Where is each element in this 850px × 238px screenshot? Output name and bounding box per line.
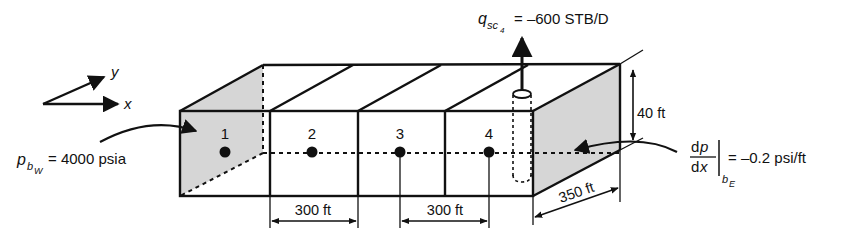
x-axis-label: x [123, 95, 132, 112]
west-pressure-symbol: p [16, 151, 26, 168]
axes-indicator: y x [43, 63, 132, 112]
gridblock-4-label: 4 [485, 125, 493, 142]
gridblock-1-label: 1 [221, 125, 229, 142]
gridblock-2-point [307, 147, 318, 158]
y-axis-arrow [43, 77, 104, 104]
west-pressure-value: = 4000 psia [48, 150, 127, 167]
y-axis-label: y [110, 63, 120, 80]
well-top [513, 90, 531, 98]
east-grad-numerator-d: d [691, 138, 699, 155]
east-grad-subscript: b [722, 173, 728, 185]
thickness-label: 40 ft [637, 105, 665, 121]
east-face-shade [533, 64, 620, 196]
gridblock-3-label: 3 [396, 125, 404, 142]
east-grad-denominator-x: x [699, 158, 708, 175]
well-rate-symbol: q [478, 10, 487, 27]
well-rate-label: q sc 4 = –600 STB/D [478, 10, 609, 35]
gridblock-2-label: 2 [308, 125, 316, 142]
east-grad-value: = –0.2 psi/ft [728, 149, 807, 166]
east-grad-numerator-p: p [699, 138, 708, 155]
east-grad-denominator-d: d [691, 158, 699, 175]
reservoir-diagram: y x [0, 0, 850, 238]
well-rate-value: = –600 STB/D [514, 10, 609, 27]
east-boundary-label: d p d x b E = –0.2 psi/ft [690, 138, 807, 189]
west-boundary-label: p b W = 4000 psia [16, 150, 127, 176]
block-length-label-1: 300 ft [295, 202, 331, 218]
block-length-label-2: 300 ft [427, 202, 463, 218]
west-pressure-sub-subscript: W [34, 166, 44, 176]
well-rate-subscript: sc [487, 19, 499, 31]
well-rate-sub-subscript: 4 [500, 26, 505, 35]
east-grad-sub-subscript: E [729, 179, 736, 189]
gridblock-1-point [220, 147, 231, 158]
west-pressure-subscript: b [27, 160, 33, 172]
